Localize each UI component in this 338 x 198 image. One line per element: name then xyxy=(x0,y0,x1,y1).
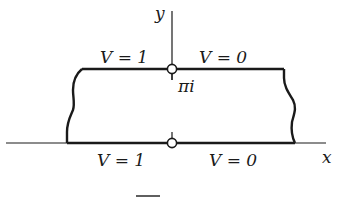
top-left-label: V = 1 xyxy=(100,47,148,67)
right-wavy-edge xyxy=(284,69,295,143)
top-right-label: V = 0 xyxy=(199,47,247,67)
bottom-left-label: V = 1 xyxy=(97,150,145,170)
y-axis-label: y xyxy=(154,3,165,23)
origin-point-circle xyxy=(167,138,176,147)
pi-i-point-circle xyxy=(167,64,176,73)
pi-i-label: πi xyxy=(177,76,195,96)
x-axis-label: x xyxy=(322,147,332,167)
left-wavy-edge xyxy=(67,69,82,143)
bottom-right-label: V = 0 xyxy=(209,150,257,170)
strip-diagram: y x V = 1 V = 0 πi V = 1 V = 0 xyxy=(0,0,338,198)
